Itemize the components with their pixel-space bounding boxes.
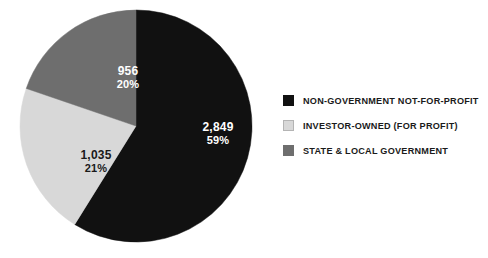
pie-graphic: 2,849 59% 1,035 21% 956 20% bbox=[18, 6, 258, 252]
legend-swatch-icon-non-government-not-for-profit bbox=[283, 95, 294, 106]
legend: NON-GOVERNMENT NOT-FOR-PROFIT INVESTOR-O… bbox=[283, 88, 485, 163]
pie-svg bbox=[18, 6, 258, 252]
pie-slice-group bbox=[20, 10, 252, 242]
legend-label-investor-owned: INVESTOR-OWNED (FOR PROFIT) bbox=[303, 120, 458, 131]
legend-label-non-government-not-for-profit: NON-GOVERNMENT NOT-FOR-PROFIT bbox=[303, 95, 479, 106]
legend-item-investor-owned: INVESTOR-OWNED (FOR PROFIT) bbox=[283, 113, 485, 138]
pie-chart: 2,849 59% 1,035 21% 956 20% NON-GOVERNME… bbox=[0, 0, 488, 258]
legend-swatch-icon-investor-owned bbox=[283, 120, 294, 131]
legend-item-state-local-government: STATE & LOCAL GOVERNMENT bbox=[283, 138, 485, 163]
legend-item-non-government-not-for-profit: NON-GOVERNMENT NOT-FOR-PROFIT bbox=[283, 88, 485, 113]
legend-swatch-icon-state-local-government bbox=[283, 145, 294, 156]
legend-label-state-local-government: STATE & LOCAL GOVERNMENT bbox=[303, 145, 448, 156]
